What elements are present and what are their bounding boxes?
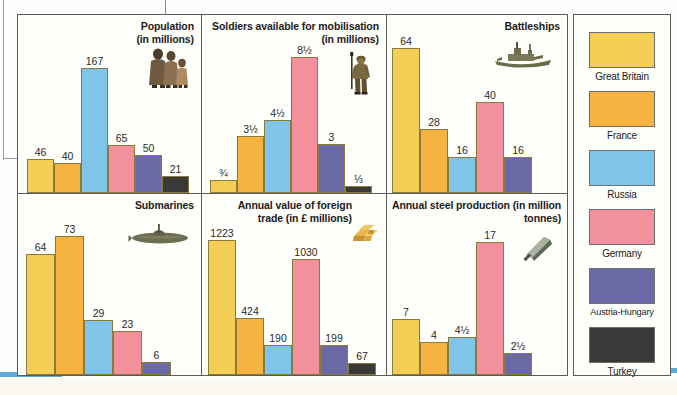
chart-panel-battleships: Battleships 64 28 16 — [386, 14, 568, 194]
bar-great-britain: 64 — [26, 254, 55, 375]
chart-panel-steel-production: Annual steel production (in million tonn… — [386, 193, 568, 376]
legend-swatch-great-britain — [589, 32, 655, 68]
legend-swatch-turkey — [589, 327, 655, 363]
bar-france: 73 — [55, 236, 84, 375]
bar-france: 3½ — [237, 136, 264, 193]
bar-germany: 40 — [476, 102, 504, 193]
bar-value: 167 — [86, 55, 104, 67]
chart-grid: Population (in millions) 46 40 — [17, 14, 568, 376]
bar-austria-hungary: 2½ — [504, 353, 532, 375]
bar-value: 6 — [154, 349, 160, 361]
bar-value: 1223 — [210, 227, 233, 239]
bar-value: 17 — [484, 229, 496, 241]
bar-value: 40 — [484, 89, 496, 101]
bar-turkey: 21 — [162, 176, 189, 193]
chart-plot-steel-production: 7 4 4½ 17 2½ — [387, 194, 567, 375]
bar-value: 67 — [356, 350, 368, 362]
legend-item-turkey[interactable]: Turkey — [574, 327, 670, 377]
bar-value: ⅓ — [354, 173, 363, 185]
bar-great-britain: 7 — [392, 319, 420, 375]
bar-austria-hungary: 3 — [318, 144, 345, 193]
bar-value: 64 — [35, 241, 47, 253]
chart-panel-foreign-trade: Annual value of foreign trade (in £ mill… — [201, 193, 387, 376]
chart-panel-soldiers: Soldiers available for mobilisation (in … — [201, 14, 387, 194]
legend-swatch-france — [589, 91, 655, 127]
bar-russia: 167 — [81, 68, 108, 193]
bar-france: 4 — [420, 342, 448, 375]
bar-germany: 1030 — [292, 259, 320, 375]
chart-legend: Great Britain France Russia Germany Aust… — [573, 14, 671, 376]
bar-great-britain: 1223 — [208, 240, 236, 375]
bar-value: 8½ — [297, 44, 312, 56]
bar-germany: 8½ — [291, 57, 318, 193]
legend-label: Turkey — [574, 366, 670, 377]
bar-value: 73 — [64, 223, 76, 235]
chart-plot-submarines: 64 73 29 23 6 — [18, 194, 201, 375]
legend-label: Germany — [574, 248, 670, 259]
bar-russia: 4½ — [448, 337, 476, 375]
bar-germany: 17 — [476, 242, 504, 375]
chart-plot-population: 46 40 167 65 50 21 — [18, 15, 201, 193]
legend-label: Great Britain — [574, 71, 670, 82]
legend-item-russia[interactable]: Russia — [574, 150, 670, 200]
bar-russia: 4½ — [264, 120, 291, 193]
bar-russia: 29 — [84, 320, 113, 375]
bar-great-britain: ¾ — [210, 180, 237, 193]
bar-turkey: ⅓ — [345, 186, 372, 193]
bar-value: 23 — [122, 318, 134, 330]
bar-value: 29 — [93, 307, 105, 319]
bar-value: 190 — [269, 332, 287, 344]
decorative-rule-left — [3, 0, 4, 160]
decorative-rule-left-tick — [3, 158, 17, 159]
bar-france: 40 — [54, 163, 81, 193]
legend-item-great-britain[interactable]: Great Britain — [574, 32, 670, 82]
legend-item-austria-hungary[interactable]: Austria-Hungary — [574, 268, 670, 317]
legend-item-france[interactable]: France — [574, 91, 670, 141]
chart-panel-population: Population (in millions) 46 40 — [17, 14, 202, 194]
legend-label: Austria-Hungary — [574, 307, 670, 317]
chart-panel-submarines: Submarines 64 73 29 23 — [17, 193, 202, 376]
bar-turkey: 67 — [348, 363, 376, 375]
bar-value: 4 — [431, 329, 437, 341]
legend-label: France — [574, 130, 670, 141]
bar-value: 46 — [35, 146, 47, 158]
bar-value: 199 — [325, 332, 343, 344]
bar-value: 3 — [329, 131, 335, 143]
chart-plot-soldiers: ¾ 3½ 4½ 8½ 3 ⅓ — [202, 15, 386, 193]
chart-plot-foreign-trade: 1223 424 190 1030 199 67 — [202, 194, 386, 375]
legend-label: Russia — [574, 189, 670, 200]
bar-france: 28 — [420, 129, 448, 193]
bar-france: 424 — [236, 318, 264, 375]
bar-value: 7 — [403, 306, 409, 318]
bar-austria-hungary: 199 — [320, 345, 348, 375]
bar-value: ¾ — [219, 167, 228, 179]
bar-value: 2½ — [511, 340, 526, 352]
legend-item-germany[interactable]: Germany — [574, 209, 670, 259]
legend-swatch-austria-hungary — [589, 268, 655, 304]
bar-value: 3½ — [243, 123, 258, 135]
bar-value: 40 — [62, 150, 74, 162]
bar-value: 16 — [512, 144, 524, 156]
bar-value: 1030 — [294, 246, 317, 258]
bar-austria-hungary: 16 — [504, 157, 532, 193]
legend-swatch-germany — [589, 209, 655, 245]
bar-russia: 190 — [264, 345, 292, 375]
bar-value: 4½ — [270, 107, 285, 119]
bar-russia: 16 — [448, 157, 476, 193]
chart-plot-battleships: 64 28 16 40 16 — [387, 15, 567, 193]
bar-great-britain: 46 — [27, 159, 54, 193]
legend-swatch-russia — [589, 150, 655, 186]
bar-value: 16 — [456, 144, 468, 156]
page-bottom-margin — [0, 379, 677, 395]
bar-austria-hungary: 6 — [142, 362, 171, 375]
bar-austria-hungary: 50 — [135, 155, 162, 193]
bar-value: 50 — [143, 142, 155, 154]
bar-germany: 23 — [113, 331, 142, 375]
bar-value: 65 — [116, 132, 128, 144]
bar-value: 424 — [241, 305, 259, 317]
bar-germany: 65 — [108, 145, 135, 193]
bar-value: 4½ — [455, 324, 470, 336]
bar-great-britain: 64 — [392, 48, 420, 193]
bar-value: 28 — [428, 116, 440, 128]
bar-value: 21 — [170, 163, 182, 175]
